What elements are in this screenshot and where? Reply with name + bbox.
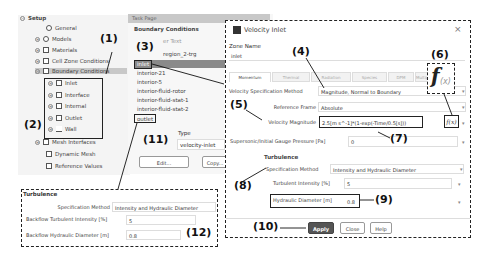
arrow-1 xyxy=(106,52,112,74)
arrow-3 xyxy=(152,64,224,84)
annotation-arrows xyxy=(0,0,487,262)
arrow-7 xyxy=(378,132,390,138)
arrow-5 xyxy=(246,110,262,120)
arrow-6 xyxy=(444,94,452,115)
arrow-4 xyxy=(306,58,324,88)
arrow-8 xyxy=(240,168,266,183)
arrow-12 xyxy=(118,123,137,189)
